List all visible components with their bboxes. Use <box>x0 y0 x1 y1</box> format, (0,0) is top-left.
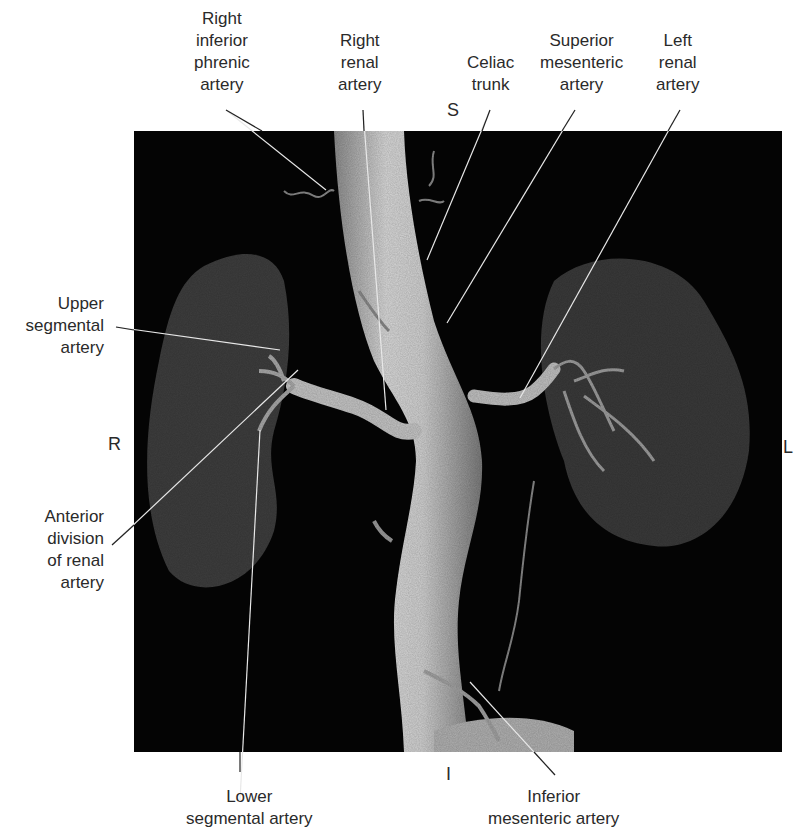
label-line: Right <box>194 8 250 30</box>
label-lower-segmental-artery: Lower segmental artery <box>186 786 313 830</box>
label-line: renal <box>338 52 381 74</box>
orientation-superior: S <box>447 100 459 121</box>
label-line: artery <box>656 74 699 96</box>
label-line: trunk <box>467 74 514 96</box>
label-line: artery <box>194 74 250 96</box>
label-line: inferior <box>194 30 250 52</box>
label-line: Superior <box>540 30 623 52</box>
label-anterior-division-of-renal-artery: Anterior division of renal artery <box>44 506 104 594</box>
label-line: segmental <box>26 315 104 337</box>
orientation-right: R <box>108 434 121 455</box>
label-right-inferior-phrenic-artery: Right inferior phrenic artery <box>194 8 250 96</box>
label-line: division <box>44 528 104 550</box>
label-line: Left <box>656 30 699 52</box>
label-line: Celiac <box>467 52 514 74</box>
leader-lines <box>0 0 804 834</box>
label-left-renal-artery: Left renal artery <box>656 30 699 96</box>
label-line: phrenic <box>194 52 250 74</box>
label-line: Upper <box>26 293 104 315</box>
orientation-left: L <box>783 437 793 458</box>
label-line: Anterior <box>44 506 104 528</box>
label-line: Right <box>338 30 381 52</box>
label-line: artery <box>26 337 104 359</box>
label-line: Inferior <box>488 786 619 808</box>
label-line: segmental artery <box>186 808 313 830</box>
label-right-renal-artery: Right renal artery <box>338 30 381 96</box>
orientation-inferior: I <box>446 764 451 785</box>
label-line: of renal <box>44 550 104 572</box>
label-line: mesenteric <box>540 52 623 74</box>
label-superior-mesenteric-artery: Superior mesenteric artery <box>540 30 623 96</box>
label-line: Lower <box>186 786 313 808</box>
label-line: mesenteric artery <box>488 808 619 830</box>
label-line: renal <box>656 52 699 74</box>
label-line: artery <box>44 572 104 594</box>
label-line: artery <box>338 74 381 96</box>
label-upper-segmental-artery: Upper segmental artery <box>26 293 104 359</box>
label-celiac-trunk: Celiac trunk <box>467 52 514 96</box>
label-inferior-mesenteric-artery: Inferior mesenteric artery <box>488 786 619 830</box>
label-line: artery <box>540 74 623 96</box>
